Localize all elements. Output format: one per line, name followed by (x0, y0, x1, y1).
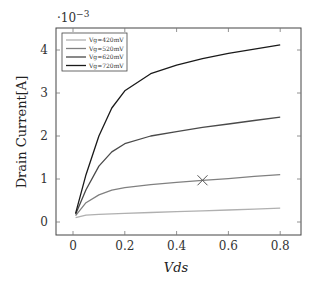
x-tick-label: 0.4 (167, 239, 186, 253)
legend: Vg=420mVVg=520mVVg=620mVVg=720mV (62, 33, 127, 71)
x-axis-label: Vds (164, 260, 189, 275)
drain-current-chart: 00.20.40.60.801234 ·10−3 Vds Drain Curre… (0, 0, 316, 285)
legend-entry: Vg=420mV (88, 36, 124, 44)
y-tick-label: 4 (40, 43, 48, 57)
x-tick-label: 0.2 (115, 239, 134, 253)
y-tick-label: 2 (40, 129, 48, 143)
legend-entry: Vg=520mV (88, 45, 124, 53)
legend-entry: Vg=620mV (88, 53, 124, 61)
y-multiplier: ·10−3 (57, 9, 90, 25)
series-line (76, 208, 281, 218)
x-tick-label: 0.8 (271, 239, 290, 253)
legend-entry: Vg=720mV (88, 62, 124, 70)
y-axis-label: Drain Current[A] (14, 76, 29, 189)
y-tick-label: 0 (40, 215, 48, 229)
series-line (76, 117, 281, 214)
x-tick-label: 0 (69, 239, 77, 253)
x-tick-label: 0.6 (219, 239, 238, 253)
y-tick-label: 1 (40, 172, 48, 186)
y-tick-label: 3 (40, 86, 48, 100)
